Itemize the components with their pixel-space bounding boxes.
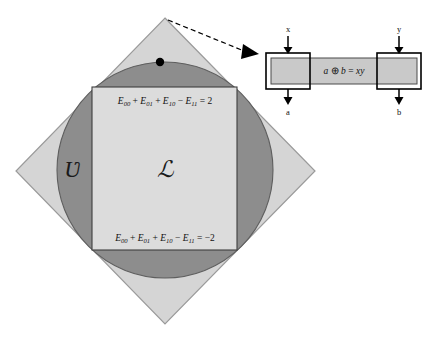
pr-box-input-y-label: y (397, 24, 402, 34)
pr-box-output-a-arrow (284, 89, 293, 105)
chsh-upper-facet-equation: E00 + E01 + E10 − E11 = 2 (117, 96, 213, 107)
chsh-correlation-figure: E00 + E01 + E10 − E11 = 2 E00 + E01 + E1… (0, 0, 429, 339)
quantum-set-label: Ʋ (64, 157, 80, 182)
pr-box-output-b-arrow (395, 89, 404, 105)
pr-box-input-x-label: x (286, 24, 291, 34)
chsh-lower-facet-equation: E00 + E01 + E10 − E11 = −2 (114, 233, 215, 244)
pr-box-input-x-arrow (284, 36, 293, 54)
pr-box-inset: a ⊕ b = xy x y a (266, 24, 421, 117)
figure-canvas: E00 + E01 + E10 − E11 = 2 E00 + E01 + E1… (0, 0, 429, 339)
local-polytope-label: ℒ (157, 157, 174, 182)
pr-box-input-y-arrow (395, 36, 404, 54)
pr-box-output-b-label: b (397, 107, 401, 117)
pr-box-relation: a ⊕ b = xy (324, 66, 366, 76)
pr-box-output-a-label: a (286, 107, 290, 117)
pr-box-point-marker (156, 58, 164, 66)
